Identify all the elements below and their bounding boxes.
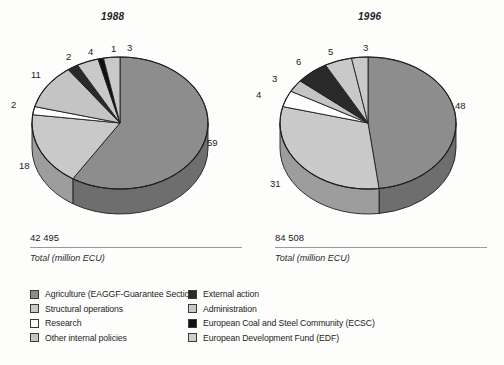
legend-swatch-icon	[30, 319, 39, 328]
legend-item: Agriculture (EAGGF-Guarantee Section)	[30, 288, 188, 300]
legend-item-label: European Development Fund (EDF)	[203, 333, 339, 343]
slice-label-structural-1988: 18	[19, 160, 30, 171]
legend-item-label: Other internal policies	[45, 333, 127, 343]
slice-label-edf-1996: 3	[363, 42, 368, 53]
legend-item: European Development Fund (EDF)	[188, 332, 488, 344]
slice-label-research-1988: 2	[11, 99, 16, 110]
total-block-1996: 84 508 Total (million ECU)	[275, 232, 487, 263]
legend-column-left: Agriculture (EAGGF-Guarantee Section)Str…	[30, 288, 188, 344]
slice-label-research-1996: 4	[256, 89, 261, 100]
slice-label-other-internal-1988: 11	[31, 69, 41, 80]
legend-item-label: Structural operations	[45, 304, 123, 314]
total-value-1988: 42 495	[30, 232, 242, 247]
legend-item: Administration	[188, 303, 488, 315]
chart-legend: Agriculture (EAGGF-Guarantee Section)Str…	[30, 288, 488, 344]
total-value-1996: 84 508	[275, 232, 487, 247]
chart-title-1988: 1988	[101, 11, 124, 22]
legend-swatch-icon	[188, 319, 197, 328]
legend-item-label: External action	[203, 289, 259, 299]
legend-swatch-icon	[188, 333, 197, 342]
chart-title-1996: 1996	[358, 11, 381, 22]
pie-chart-1996: 48 31 4 3 6 5 3	[252, 28, 482, 228]
legend-swatch-icon	[188, 290, 197, 299]
total-block-1988: 42 495 Total (million ECU)	[30, 232, 242, 263]
legend-swatch-icon	[30, 290, 39, 299]
slice-label-external-action-1996: 6	[296, 56, 301, 67]
legend-swatch-icon	[188, 304, 197, 313]
chart-page: 1988 1996 59 18 2 11 2 4 1 3 48 31 4 3 6…	[0, 0, 504, 365]
legend-swatch-icon	[30, 333, 39, 342]
slice-label-other-internal-1996: 3	[272, 73, 277, 84]
legend-item: External action	[188, 288, 488, 300]
pie-svg-1988	[0, 28, 230, 228]
slice-label-agriculture-1988: 59	[207, 137, 218, 148]
legend-item-label: Research	[45, 318, 81, 328]
legend-item: Research	[30, 317, 188, 329]
slice-label-agriculture-1996: 48	[455, 100, 466, 111]
slice-label-external-action-1988: 2	[66, 51, 71, 62]
legend-item-label: European Coal and Steel Community (ECSC)	[203, 318, 375, 328]
slice-label-structural-1996: 31	[270, 178, 281, 189]
total-caption-1988: Total (million ECU)	[30, 248, 242, 263]
slice-label-administration-1996: 5	[328, 46, 333, 57]
legend-item: European Coal and Steel Community (ECSC)	[188, 317, 488, 329]
legend-swatch-icon	[30, 304, 39, 313]
legend-column-right: External actionAdministrationEuropean Co…	[188, 288, 488, 344]
slice-label-edf-1988: 3	[127, 42, 132, 53]
slice-label-administration-1988: 4	[88, 46, 93, 57]
legend-item: Other internal policies	[30, 332, 188, 344]
pie-svg-1996	[252, 28, 482, 228]
legend-item-label: Agriculture (EAGGF-Guarantee Section)	[45, 289, 197, 299]
total-caption-1996: Total (million ECU)	[275, 248, 487, 263]
slice-label-ecsc-1988: 1	[111, 43, 116, 54]
legend-item: Structural operations	[30, 303, 188, 315]
pie-chart-1988: 59 18 2 11 2 4 1 3	[0, 28, 230, 228]
legend-item-label: Administration	[203, 304, 257, 314]
